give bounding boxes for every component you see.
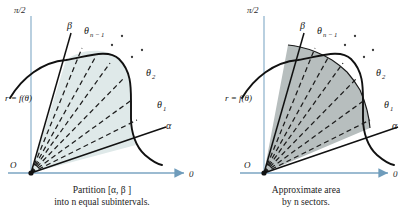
caption-left: Partition [α, β ] into n equal subinterv…: [0, 184, 204, 208]
svg-text:θ: θ: [317, 25, 322, 36]
x-axis-label: 0: [393, 169, 398, 179]
label-theta-2: θ 2: [146, 67, 156, 80]
svg-text:n − 1: n − 1: [323, 31, 337, 38]
label-alpha: α: [392, 120, 398, 131]
svg-text:θ: θ: [146, 67, 151, 78]
origin-label: O: [10, 160, 17, 170]
y-axis-label: π/2: [247, 5, 259, 15]
svg-text:n − 1: n − 1: [90, 31, 104, 38]
svg-text:θ: θ: [376, 67, 381, 78]
curve-label: r = f(θ): [225, 93, 252, 103]
svg-text:θ: θ: [384, 99, 389, 110]
caption-left-line-2: into n equal subintervals.: [0, 196, 204, 208]
svg-text:θ: θ: [84, 25, 89, 36]
origin-label: O: [244, 160, 251, 170]
origin-point: [261, 170, 266, 175]
label-alpha: α: [166, 120, 172, 131]
y-axis-label: π/2: [14, 5, 26, 15]
label-theta-2: θ 2: [376, 67, 386, 80]
caption-right: Approximate area by n sectors.: [204, 184, 408, 208]
label-beta: β: [66, 20, 72, 31]
figure-panel-right: π/2 0 O r = f(θ) β θ n − 1 θ 2 θ 1 α App…: [204, 0, 408, 218]
ellipsis-dots-right: [344, 35, 374, 58]
curve-label: r = f(θ): [5, 93, 32, 103]
label-beta: β: [299, 20, 305, 31]
x-axis-label: 0: [189, 169, 194, 179]
caption-left-line-1: Partition [α, β ]: [0, 184, 204, 196]
label-theta-1: θ 1: [384, 99, 393, 112]
svg-text:2: 2: [382, 73, 386, 80]
caption-right-line-2: by n sectors.: [204, 196, 408, 208]
figure-panel-left: π/2 0 O r = f(θ) β θ n − 1 θ 2 θ 1 α Par…: [0, 0, 204, 218]
label-theta-1: θ 1: [157, 99, 166, 112]
svg-text:1: 1: [390, 105, 393, 112]
svg-text:θ: θ: [157, 99, 162, 110]
caption-right-line-1: Approximate area: [204, 184, 408, 196]
svg-text:2: 2: [152, 73, 156, 80]
origin-point: [28, 170, 33, 175]
svg-text:1: 1: [163, 105, 166, 112]
label-theta-n-minus-1: θ n − 1: [84, 25, 104, 38]
ellipsis-dots-left: [111, 35, 143, 58]
label-theta-n-minus-1: θ n − 1: [317, 25, 337, 38]
